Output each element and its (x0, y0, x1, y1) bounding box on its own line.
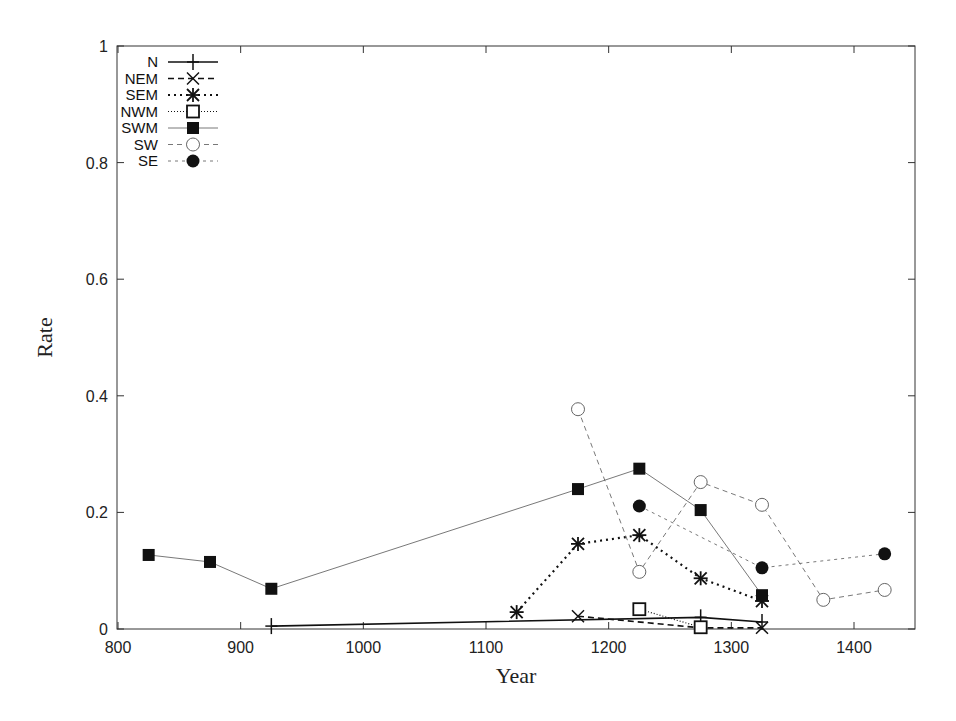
line-chart: 8009001000110012001300140000.20.40.60.81… (0, 0, 956, 721)
data-point-swm (695, 504, 707, 516)
data-point-sw (817, 593, 830, 606)
legend-marker-sw (187, 138, 200, 151)
legend-label-n: N (147, 53, 158, 70)
y-tick-label: 0.6 (86, 271, 108, 288)
data-point-sw (756, 498, 769, 511)
y-axis-label: Rate (32, 317, 57, 357)
x-tick-label: 1400 (836, 639, 872, 656)
data-point-nwm (633, 603, 645, 615)
data-point-swm (204, 556, 216, 568)
data-point-swm (756, 589, 768, 601)
data-point-se (633, 499, 646, 512)
legend-label-nwm: NWM (121, 103, 159, 120)
x-axis-label: Year (496, 663, 537, 688)
legend-label-nem: NEM (125, 70, 158, 87)
legend-label-sem: SEM (125, 86, 158, 103)
legend-label-sw: SW (134, 136, 159, 153)
data-point-swm (265, 583, 277, 595)
series-line-se (639, 506, 884, 568)
x-tick-label: 1000 (346, 639, 382, 656)
legend-marker-swm (187, 122, 199, 134)
legend-marker-nwm (187, 106, 199, 118)
legend-label-swm: SWM (121, 119, 158, 136)
plot-frame (117, 46, 915, 629)
legend-label-se: SE (138, 152, 158, 169)
y-tick-label: 0 (99, 621, 108, 638)
data-point-se (878, 547, 891, 560)
legend-marker-se (187, 155, 200, 168)
chart-container: 8009001000110012001300140000.20.40.60.81… (0, 0, 956, 721)
data-point-se (756, 561, 769, 574)
data-point-swm (143, 549, 155, 561)
data-point-sw (878, 583, 891, 596)
data-point-sw (572, 403, 585, 416)
data-point-swm (572, 483, 584, 495)
data-point-nwm (695, 621, 707, 633)
data-point-sw (694, 476, 707, 489)
y-tick-label: 1 (99, 38, 108, 55)
x-tick-label: 1100 (469, 639, 504, 656)
series-line-swm (149, 469, 762, 596)
data-point-sw (633, 565, 646, 578)
y-tick-label: 0.2 (86, 504, 108, 521)
x-tick-label: 900 (227, 639, 254, 656)
data-point-swm (633, 463, 645, 475)
x-tick-label: 1200 (591, 639, 627, 656)
x-tick-label: 800 (105, 639, 132, 656)
y-tick-label: 0.8 (86, 155, 108, 172)
y-tick-label: 0.4 (86, 388, 108, 405)
series-line-sw (578, 409, 885, 600)
x-tick-label: 1300 (714, 639, 750, 656)
